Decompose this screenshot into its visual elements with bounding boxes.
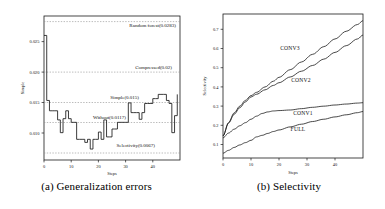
plot-frame-a bbox=[44, 16, 180, 160]
y-tick-label-01: 0.1 bbox=[213, 142, 219, 147]
curve-label-conv1: CONV1 bbox=[293, 110, 313, 116]
y-tick-label-0025: 0.025 bbox=[30, 39, 41, 44]
x-tick-label-10: 10 bbox=[69, 164, 74, 169]
figure-container: 0.010 0.015 0.020 0.025 Simple 0 10 20 3… bbox=[0, 0, 385, 209]
y-tick-label-0015: 0.015 bbox=[30, 100, 41, 105]
y-axis-title-a: Simple bbox=[20, 82, 25, 94]
selectivity-chart: 0.1 0.2 0.3 0.4 0.5 0.6 0.7 Selectivity … bbox=[193, 0, 385, 180]
x-tick-label-b-30: 30 bbox=[305, 162, 310, 167]
annotation-compressed: Compressed(0.02) bbox=[135, 65, 172, 70]
annotation-selectivity: Selectivity(0.0067) bbox=[117, 143, 156, 148]
y-tick-label-0010: 0.010 bbox=[30, 131, 41, 136]
y-tick-label-07: 0.7 bbox=[213, 27, 219, 32]
y-tick-label-03: 0.3 bbox=[213, 104, 219, 109]
x-axis-title-b: Steps bbox=[288, 170, 298, 175]
curve-label-conv3: CONV3 bbox=[280, 45, 300, 51]
curve-label-full: FULL bbox=[291, 126, 306, 132]
y-tick-label-05: 0.5 bbox=[213, 65, 219, 70]
y-tick-label-02: 0.2 bbox=[213, 123, 219, 128]
annotation-simple: Simple(0.015) bbox=[110, 95, 139, 100]
x-axis-a: 0 10 20 30 40 Steps bbox=[43, 160, 156, 176]
panel-selectivity: 0.1 0.2 0.3 0.4 0.5 0.6 0.7 Selectivity … bbox=[193, 0, 385, 209]
panel-generalization-errors: 0.010 0.015 0.020 0.025 Simple 0 10 20 3… bbox=[0, 0, 193, 209]
annotation-without: Without(0.0117) bbox=[93, 115, 126, 120]
y-axis-a: 0.010 0.015 0.020 0.025 Simple bbox=[20, 39, 44, 135]
x-tick-label-20: 20 bbox=[96, 164, 101, 169]
y-tick-label-0020: 0.020 bbox=[30, 70, 41, 75]
generalization-errors-chart: 0.010 0.015 0.020 0.025 Simple 0 10 20 3… bbox=[0, 0, 193, 180]
y-tick-label-04: 0.4 bbox=[213, 85, 219, 90]
plot-frame-b bbox=[223, 14, 363, 158]
x-axis-b: 0 10 20 30 40 Steps bbox=[222, 158, 338, 175]
y-axis-title-b: Selectivity bbox=[202, 76, 207, 96]
x-axis-title-a: Steps bbox=[107, 171, 117, 176]
x-tick-label-b-0: 0 bbox=[222, 162, 225, 167]
curve-label-conv2: CONV2 bbox=[291, 77, 311, 83]
x-tick-label-b-20: 20 bbox=[277, 162, 282, 167]
caption-panel-a: (a) Generalization errors bbox=[0, 180, 193, 192]
x-tick-label-0: 0 bbox=[43, 164, 46, 169]
x-tick-label-40: 40 bbox=[151, 164, 156, 169]
y-axis-b: 0.1 0.2 0.3 0.4 0.5 0.6 0.7 Selectivity bbox=[202, 27, 223, 147]
annotation-random-forest: Random forest(0.0283) bbox=[129, 23, 176, 28]
y-tick-label-06: 0.6 bbox=[213, 46, 219, 51]
x-tick-label-30: 30 bbox=[123, 164, 128, 169]
x-tick-label-b-40: 40 bbox=[333, 162, 338, 167]
x-tick-label-b-10: 10 bbox=[249, 162, 254, 167]
caption-panel-b: (b) Selectivity bbox=[193, 180, 385, 192]
